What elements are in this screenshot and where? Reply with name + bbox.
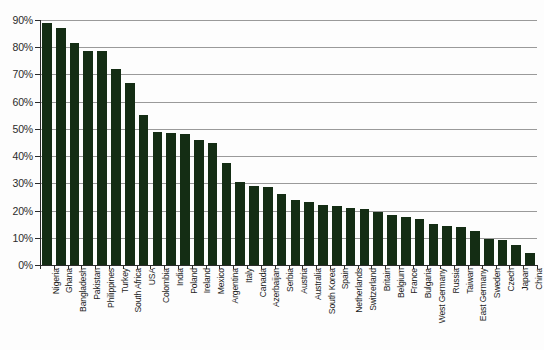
x-axis-tick xyxy=(358,265,359,269)
bar xyxy=(415,219,425,265)
x-axis-tick-label: East Germany xyxy=(478,268,488,321)
bar xyxy=(525,253,535,265)
x-axis-tick xyxy=(164,265,165,269)
x-axis-tick-label: Ireland xyxy=(202,268,212,293)
x-axis-tick xyxy=(150,265,151,269)
y-axis-labels: 0%10%20%30%40%50%60%70%80%90% xyxy=(0,0,36,350)
bar xyxy=(208,143,218,266)
bar xyxy=(304,202,314,265)
bar xyxy=(373,212,383,265)
x-axis-tick xyxy=(537,265,538,269)
x-axis-tick xyxy=(468,265,469,269)
x-axis-tick xyxy=(233,265,234,269)
x-axis-tick xyxy=(371,265,372,269)
x-axis-tick xyxy=(219,265,220,269)
x-axis-tick xyxy=(427,265,428,269)
x-axis-tick xyxy=(54,265,55,269)
x-axis-tick-label: Belgium xyxy=(396,268,406,298)
x-axis-tick xyxy=(40,265,41,269)
bar xyxy=(387,215,397,265)
bar xyxy=(111,69,121,265)
x-axis-tick-label: France xyxy=(409,268,419,294)
bar xyxy=(56,28,66,265)
bar xyxy=(442,226,452,265)
y-axis-tick-label: 70% xyxy=(0,68,33,80)
x-axis-tick xyxy=(109,265,110,269)
x-axis-tick-label: Australia xyxy=(313,268,323,300)
bar xyxy=(222,163,232,265)
y-axis-tick-label: 0% xyxy=(0,259,33,271)
y-axis-tick-label: 30% xyxy=(0,177,33,189)
bar xyxy=(456,227,466,265)
bar xyxy=(470,231,480,265)
y-axis-tick-label: 80% xyxy=(0,41,33,53)
x-axis-tick xyxy=(123,265,124,269)
x-axis-tick-label: Argentina xyxy=(230,268,240,303)
bar xyxy=(498,240,508,265)
x-axis-tick-label: Ghana xyxy=(64,268,74,293)
x-axis-tick-label: Italy xyxy=(244,268,254,283)
x-axis-tick-label: Turkey xyxy=(120,268,130,293)
x-axis-tick-label: Canada xyxy=(258,268,268,297)
bar xyxy=(166,133,176,265)
x-axis-tick xyxy=(289,265,290,269)
x-axis-tick-label: Japan xyxy=(520,268,530,291)
bar xyxy=(263,187,273,265)
bar xyxy=(332,206,342,265)
bar-chart: 0%10%20%30%40%50%60%70%80%90% NigeriaGha… xyxy=(0,0,544,350)
x-axis-tick-label: Serbia xyxy=(285,268,295,292)
bar xyxy=(153,132,163,265)
bar xyxy=(360,209,370,265)
y-axis-tick-label: 20% xyxy=(0,205,33,217)
x-axis-tick-label: Sweden xyxy=(492,268,502,298)
x-axis-tick-label: Russia xyxy=(451,268,461,293)
bar xyxy=(429,224,439,265)
x-axis-tick-label: Spain xyxy=(340,268,350,289)
x-axis-tick xyxy=(413,265,414,269)
x-axis-tick xyxy=(344,265,345,269)
x-axis-tick xyxy=(523,265,524,269)
y-axis-tick xyxy=(35,211,40,212)
y-axis-tick xyxy=(35,129,40,130)
y-axis-tick xyxy=(35,47,40,48)
x-axis-tick xyxy=(399,265,400,269)
x-axis-tick xyxy=(330,265,331,269)
x-axis-tick-label: Taiwan xyxy=(465,268,475,294)
x-axis-tick xyxy=(496,265,497,269)
x-axis-tick xyxy=(316,265,317,269)
x-axis-tick-label: China xyxy=(534,268,544,290)
bar xyxy=(125,83,135,265)
bar xyxy=(249,186,259,265)
x-axis-tick xyxy=(178,265,179,269)
x-axis-tick-label: Czech xyxy=(506,268,516,292)
x-axis-tick xyxy=(302,265,303,269)
y-axis-tick xyxy=(35,156,40,157)
x-axis-tick xyxy=(440,265,441,269)
x-axis-tick xyxy=(509,265,510,269)
y-axis-tick xyxy=(35,238,40,239)
x-axis-tick-label: Colombia xyxy=(161,268,171,303)
y-axis-tick-label: 40% xyxy=(0,150,33,162)
x-axis-tick-label: Mexico xyxy=(216,268,226,294)
x-axis-tick-label: Poland xyxy=(189,268,199,294)
bar xyxy=(97,51,107,265)
x-axis-tick-label: South Korea xyxy=(327,268,337,314)
y-axis-tick-label: 90% xyxy=(0,14,33,26)
y-axis-tick-label: 50% xyxy=(0,123,33,135)
bar xyxy=(484,239,494,265)
x-axis-tick xyxy=(192,265,193,269)
x-axis-tick xyxy=(275,265,276,269)
bar xyxy=(83,51,93,265)
y-axis-tick-label: 10% xyxy=(0,232,33,244)
bar xyxy=(139,115,149,265)
x-axis-tick-label: Pakistan xyxy=(92,268,102,300)
y-axis-tick xyxy=(35,183,40,184)
bar xyxy=(70,43,80,265)
bar xyxy=(235,182,245,265)
x-axis-tick-label: Azerbaijan xyxy=(271,268,281,307)
bar xyxy=(194,140,204,265)
bar xyxy=(511,245,521,265)
x-axis-tick-label: Bangladesh xyxy=(78,268,88,312)
x-axis-tick-label: Nigeria xyxy=(51,268,61,294)
x-axis-tick-label: Philippines xyxy=(106,268,116,308)
